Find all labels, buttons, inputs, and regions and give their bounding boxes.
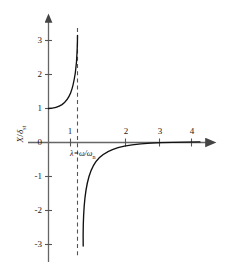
- y-tick-label-0: 0: [30, 138, 42, 147]
- x-tick-label-4: 4: [190, 127, 195, 136]
- x-tick-label-3: 3: [158, 127, 163, 136]
- y-tick-label-3: 3: [30, 36, 42, 45]
- y-axis-title-numerator: X: [15, 137, 25, 143]
- frequency-response-chart: 1 2 3 4 3 2 1 0 -1 -2 -3 X/δst λ=ω/ωn: [0, 0, 227, 279]
- y-tick-label-2: 2: [30, 70, 42, 79]
- y-tick-label-minus-3: -3: [26, 240, 42, 249]
- y-tick-label-minus-1: -1: [26, 172, 42, 181]
- annotation-subscript: n: [92, 154, 95, 160]
- x-tick-label-1: 1: [68, 127, 73, 136]
- curve-branch-right: [83, 142, 200, 246]
- y-axis-title-denominator: δ: [15, 130, 25, 134]
- y-tick-label-minus-2: -2: [26, 206, 42, 215]
- curve-branch-left: [49, 36, 78, 109]
- y-axis-title: X/δst: [15, 116, 27, 152]
- y-axis-title-slash: /: [15, 134, 25, 137]
- asymptote-annotation: λ=ω/ωn: [70, 149, 95, 160]
- y-tick-label-1: 1: [30, 104, 42, 113]
- x-tick-label-2: 2: [124, 127, 129, 136]
- y-axis-title-subscript: st: [21, 125, 27, 129]
